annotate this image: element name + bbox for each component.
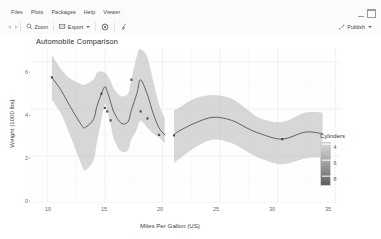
x-tick-label: 10 bbox=[45, 206, 51, 212]
x-tick-label: 30 bbox=[269, 206, 275, 212]
menu-bar: Files Plots Packages Help Viewer bbox=[0, 6, 381, 20]
remove-plot-button[interactable] bbox=[98, 20, 112, 33]
toolbar-separator bbox=[95, 22, 96, 31]
menu-item-packages[interactable]: Packages bbox=[47, 6, 79, 19]
x-tick-label: 35 bbox=[325, 206, 331, 212]
legend-tick-line bbox=[322, 176, 331, 177]
plot-navigation bbox=[8, 25, 18, 29]
publish-button[interactable]: Publish bbox=[335, 20, 375, 33]
toolbar-separator bbox=[20, 22, 21, 31]
plots-toolbar: Zoom Export bbox=[0, 19, 381, 35]
zoom-button[interactable]: Zoom bbox=[23, 20, 51, 33]
legend-tick-line bbox=[322, 160, 331, 161]
legend-tick-label: 6 bbox=[334, 160, 337, 166]
chevron-down-icon[interactable] bbox=[86, 26, 90, 28]
legend: Cylinders 4 6 8 bbox=[320, 133, 348, 186]
legend-body: 4 6 8 bbox=[320, 142, 348, 186]
window-minimize-icon[interactable] bbox=[358, 11, 364, 17]
menu-item-viewer[interactable]: Viewer bbox=[99, 6, 124, 19]
arrow-left-icon[interactable] bbox=[8, 25, 11, 29]
legend-tick-label: 8 bbox=[334, 176, 337, 182]
window-maximize-icon[interactable] bbox=[367, 9, 376, 18]
window-controls bbox=[358, 9, 376, 18]
toolbar-separator bbox=[53, 22, 54, 31]
toolbar-separator bbox=[114, 22, 115, 31]
toolbar-right-group: Publish bbox=[335, 20, 375, 33]
magnifier-icon bbox=[26, 23, 33, 30]
menu-item-help[interactable]: Help bbox=[80, 6, 100, 19]
x-tick-label: 25 bbox=[213, 206, 219, 212]
arrow-right-icon[interactable] bbox=[15, 25, 18, 29]
legend-tick-label: 4 bbox=[334, 144, 337, 150]
chevron-down-icon[interactable] bbox=[368, 26, 372, 28]
remove-plot-icon bbox=[101, 23, 109, 31]
plot-panel bbox=[30, 48, 341, 203]
legend-tick-list: 4 6 8 bbox=[334, 142, 348, 184]
publish-button-label: Publish bbox=[347, 24, 365, 30]
rstudio-plots-pane: Files Plots Packages Help Viewer Zoom bbox=[0, 0, 381, 239]
x-tick-label: 20 bbox=[157, 206, 163, 212]
export-button-label: Export bbox=[68, 24, 84, 30]
export-button[interactable]: Export bbox=[56, 20, 93, 33]
menu-item-files[interactable]: Files bbox=[7, 6, 27, 19]
legend-colorbar bbox=[320, 142, 331, 186]
plot-canvas[interactable]: Automobile Comparison Weight (1000 lbs) … bbox=[0, 34, 381, 239]
legend-tick-line bbox=[322, 144, 331, 145]
export-image-icon bbox=[59, 23, 66, 30]
publish-icon bbox=[338, 23, 346, 31]
zoom-button-label: Zoom bbox=[35, 24, 49, 30]
x-tick-label: 15 bbox=[101, 206, 107, 212]
clear-all-plots-button[interactable] bbox=[117, 20, 131, 33]
broom-clear-icon bbox=[120, 23, 128, 31]
legend-title: Cylinders bbox=[320, 133, 348, 139]
menu-item-plots[interactable]: Plots bbox=[27, 6, 47, 19]
